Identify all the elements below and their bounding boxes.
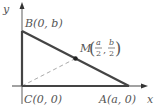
y-axis-arrow-icon: [20, 2, 25, 9]
svg-text:2: 2: [96, 49, 101, 58]
svg-text:a: a: [96, 38, 101, 47]
svg-text:): ): [115, 39, 121, 58]
svg-text:b: b: [109, 38, 114, 47]
point-b-label: B(0, b): [24, 17, 63, 30]
svg-text:,: ,: [103, 44, 106, 55]
svg-text:(: (: [89, 39, 95, 58]
svg-text:2: 2: [109, 49, 114, 58]
y-axis-label: y: [2, 3, 10, 16]
x-axis-label: x: [147, 93, 154, 106]
point-m-label: M ( a 2 , b 2 ): [79, 38, 121, 58]
triangle-diagram: y x B(0, b) C(0, 0) A(a, 0) M ( a 2 , b …: [0, 0, 156, 111]
point-c-label: C(0, 0): [24, 93, 62, 106]
point-a-label: A(a, 0): [98, 93, 136, 106]
median-dashed-line: [22, 59, 76, 87]
midpoint-dot: [73, 56, 77, 60]
x-axis-arrow-icon: [141, 84, 148, 89]
